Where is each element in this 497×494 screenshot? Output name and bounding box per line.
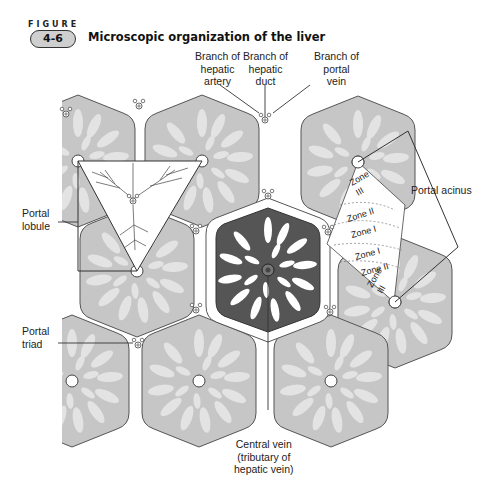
label-central-vein: Central vein (tributary of hepatic vein) (234, 438, 294, 476)
label-portal-triad: Portal triad (22, 325, 49, 350)
label-portal-lobule: Portal lobule (22, 207, 50, 232)
label-portal-acinus: Portal acinus (411, 184, 472, 197)
label-branch-portal-vein: Branch of portal vein (314, 50, 359, 88)
label-branch-hepatic-artery: Branch of hepatic artery (195, 50, 240, 88)
lobule-bottom-center (142, 315, 256, 447)
lobule-bottom-right (274, 315, 388, 447)
label-branch-hepatic-duct: Branch of hepatic duct (243, 50, 288, 88)
